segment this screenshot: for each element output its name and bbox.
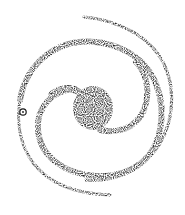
sun-marker (20, 109, 26, 115)
galaxy-svg (0, 0, 185, 215)
galaxy-diagram: Spiral galaxy schematic (0, 0, 185, 215)
